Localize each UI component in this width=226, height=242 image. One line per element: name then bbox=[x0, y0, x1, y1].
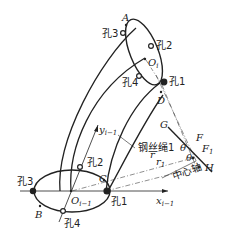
upper-hole2-label: 孔2 bbox=[156, 40, 172, 51]
y-axis-label: yi−1 bbox=[98, 124, 117, 137]
point-Oim1-label: Oi−1 bbox=[71, 195, 92, 208]
theta2-label: θ bbox=[186, 152, 192, 163]
r1-label: r1 bbox=[156, 156, 165, 169]
point-F-label: F bbox=[195, 132, 204, 143]
wire-rope-leader bbox=[118, 135, 135, 148]
lower-hole4-marker bbox=[61, 209, 66, 214]
x-axis-label: xi−1 bbox=[156, 195, 174, 208]
lower-hole3-label: 孔3 bbox=[17, 176, 33, 187]
connecting-curves bbox=[60, 28, 163, 191]
point-C-label: C bbox=[99, 173, 107, 184]
point-H-label: H bbox=[204, 162, 214, 173]
point-F1-label: F1 bbox=[201, 143, 213, 156]
lower-hole4-label: 孔4 bbox=[64, 218, 80, 229]
lower-hole1-marker bbox=[104, 188, 110, 194]
point-A-label: A bbox=[121, 12, 129, 23]
lower-hole3-marker bbox=[30, 188, 35, 193]
point-D-label: D bbox=[156, 95, 165, 106]
upper-hole1-marker bbox=[161, 79, 167, 85]
diagram-canvas: A 孔3 孔2 Oi 孔4 孔1 D G F F1 θ θ H 钢丝绳1 中心轴… bbox=[0, 0, 226, 242]
center-axis-label: 中心轴 bbox=[171, 160, 203, 182]
upper-hole4-label: 孔4 bbox=[122, 77, 138, 88]
point-G-label: G bbox=[160, 119, 168, 130]
point-Oi-label: Oi bbox=[148, 57, 158, 70]
lower-hole2-marker bbox=[78, 165, 83, 170]
upper-hole3-label: 孔3 bbox=[102, 28, 118, 39]
upper-hole1-label: 孔1 bbox=[169, 76, 185, 87]
point-B-label: B bbox=[34, 209, 42, 220]
upper-hole3-marker bbox=[121, 31, 126, 36]
lower-hole2-label: 孔2 bbox=[87, 157, 103, 168]
upper-hole2-marker bbox=[149, 44, 154, 49]
lower-hole1-label: 孔1 bbox=[111, 196, 127, 207]
wire-rope-label: 钢丝绳1 bbox=[138, 141, 174, 153]
